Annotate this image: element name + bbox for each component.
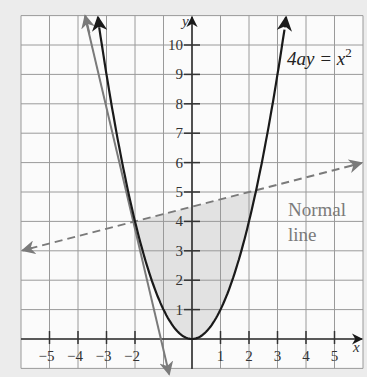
parabola-arrow-left	[98, 17, 99, 27]
x-tick-label: 2	[245, 348, 253, 364]
y-axis-label: y	[180, 13, 189, 29]
y-tick-label: 7	[176, 125, 184, 141]
x-tick-label: −3	[96, 348, 112, 364]
y-tick-label: 5	[176, 184, 184, 200]
normal-line-label-2: line	[288, 224, 317, 245]
chart-svg: −5−4−3−21234512345678910 4ay = x2 Normal…	[0, 0, 367, 377]
x-tick-label: −4	[67, 348, 83, 364]
y-tick-label: 3	[176, 243, 184, 259]
x-tick-label: 4	[302, 348, 310, 364]
parabola-arrow-right	[285, 17, 286, 27]
y-tick-label: 1	[176, 302, 184, 318]
y-tick-label: 8	[176, 96, 184, 112]
x-tick-label: −5	[39, 348, 55, 364]
y-tick-label: 2	[176, 272, 184, 288]
y-tick-label: 6	[176, 155, 184, 171]
normal-line-label-1: Normal	[288, 199, 346, 220]
x-tick-label: 5	[331, 348, 339, 364]
equation-label: 4ay = x2	[287, 45, 352, 69]
x-tick-label: −2	[124, 348, 140, 364]
x-axis-label: x	[352, 339, 360, 355]
y-tick-label: 9	[176, 66, 184, 82]
x-tick-label: 3	[274, 348, 282, 364]
y-tick-label: 10	[168, 37, 183, 53]
y-tick-label: 4	[176, 213, 184, 229]
x-tick-label: 1	[217, 348, 225, 364]
